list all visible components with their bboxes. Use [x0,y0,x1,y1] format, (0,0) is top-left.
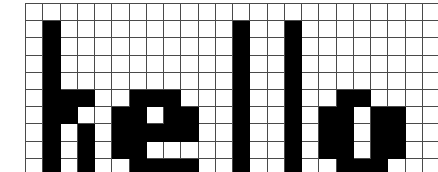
pixel-cell-empty [267,89,284,106]
pixel-cell-empty [215,38,232,55]
pixel-cell-empty [422,38,438,55]
pixel-cell-empty [112,55,129,72]
pixel-cell-filled [43,72,60,89]
pixel-cell-empty [215,4,232,21]
pixel-cell-filled [164,124,181,141]
pixel-grid-row [26,72,438,89]
pixel-cell-empty [233,4,250,21]
pixel-cell-empty [302,55,319,72]
pixel-grid-row [26,141,438,158]
pixel-cell-filled [284,21,301,38]
pixel-cell-empty [198,4,215,21]
pixel-cell-filled [181,124,198,141]
pixel-cell-empty [95,21,112,38]
pixel-cell-empty [198,72,215,89]
pixel-cell-empty [422,89,438,106]
pixel-cell-empty [336,21,353,38]
pixel-cell-empty [250,89,267,106]
pixel-cell-empty [422,72,438,89]
pixel-cell-filled [164,107,181,124]
pixel-cell-filled [284,141,301,158]
pixel-cell-filled [146,89,163,106]
pixel-cell-filled [284,107,301,124]
pixel-cell-empty [77,4,94,21]
pixel-cell-empty [353,107,370,124]
pixel-cell-empty [302,124,319,141]
pixel-cell-empty [353,38,370,55]
pixel-cell-empty [95,107,112,124]
pixel-cell-empty [319,4,336,21]
pixel-cell-empty [405,4,422,21]
pixel-cell-empty [371,4,388,21]
pixel-cell-empty [302,72,319,89]
pixel-cell-filled [336,158,353,172]
pixel-cell-filled [233,107,250,124]
pixel-cell-filled [129,89,146,106]
pixel-cell-filled [371,141,388,158]
pixel-cell-empty [164,55,181,72]
pixel-grid-row [26,4,438,21]
pixel-cell-empty [95,124,112,141]
pixel-cell-empty [422,141,438,158]
pixel-cell-filled [164,158,181,172]
pixel-cell-empty [353,124,370,141]
pixel-cell-empty [26,107,43,124]
pixel-cell-empty [215,107,232,124]
pixel-cell-empty [215,72,232,89]
pixel-cell-empty [388,21,405,38]
pixel-cell-empty [129,72,146,89]
pixel-cell-filled [336,89,353,106]
pixel-cell-empty [26,21,43,38]
pixel-cell-empty [371,72,388,89]
pixel-cell-filled [233,21,250,38]
pixel-cell-empty [198,21,215,38]
pixel-cell-empty [181,4,198,21]
pixel-cell-empty [371,21,388,38]
pixel-cell-filled [43,38,60,55]
pixel-cell-filled [129,124,146,141]
pixel-cell-empty [60,38,77,55]
pixel-cell-empty [198,124,215,141]
pixel-cell-empty [422,4,438,21]
pixel-cell-empty [95,158,112,172]
pixel-cell-empty [95,4,112,21]
pixel-cell-filled [129,158,146,172]
pixel-cell-empty [181,141,198,158]
pixel-cell-empty [405,72,422,89]
pixel-cell-empty [164,4,181,21]
figure-canvas [0,0,438,172]
pixel-cell-filled [77,158,94,172]
pixel-cell-filled [60,107,77,124]
pixel-cell-filled [319,124,336,141]
pixel-cell-empty [405,38,422,55]
pixel-cell-empty [129,21,146,38]
pixel-cell-filled [112,124,129,141]
pixel-cell-filled [60,89,77,106]
pixel-cell-empty [181,55,198,72]
pixel-cell-filled [284,89,301,106]
pixel-cell-empty [405,158,422,172]
pixel-cell-filled [336,124,353,141]
pixel-cell-filled [146,124,163,141]
pixel-cell-empty [388,4,405,21]
pixel-cell-filled [181,107,198,124]
pixel-cell-empty [250,124,267,141]
pixel-cell-empty [302,38,319,55]
pixel-grid-row [26,124,438,141]
pixel-cell-empty [164,72,181,89]
pixel-cell-empty [353,55,370,72]
pixel-grid [25,3,438,172]
pixel-cell-empty [250,38,267,55]
pixel-cell-empty [267,21,284,38]
pixel-cell-empty [250,141,267,158]
pixel-cell-empty [164,141,181,158]
pixel-cell-filled [112,107,129,124]
pixel-cell-filled [388,124,405,141]
pixel-cell-filled [388,141,405,158]
pixel-cell-empty [181,21,198,38]
pixel-cell-empty [405,107,422,124]
pixel-cell-empty [353,141,370,158]
pixel-cell-empty [146,107,163,124]
pixel-cell-empty [129,4,146,21]
pixel-cell-filled [129,141,146,158]
